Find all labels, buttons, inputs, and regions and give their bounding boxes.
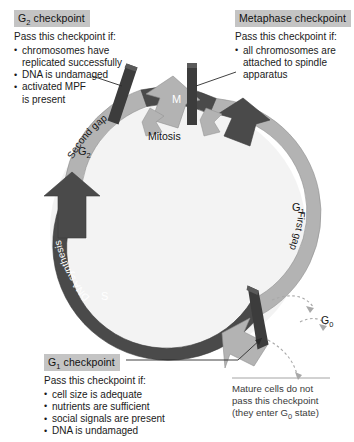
note-line-1: Mature cells do not (232, 383, 319, 395)
g1-checkpoint-box: G1 checkpoint Pass this checkpoint if: c… (44, 352, 165, 438)
g2-checkpoint-box: G2 checkpoint Pass this checkpoint if: c… (14, 8, 122, 106)
note-line-3: (they enter G0 state) (232, 407, 319, 419)
g1-checkpoint-header: G1 checkpoint (44, 354, 120, 371)
list-item: all chromosomes are attached to spindle … (235, 45, 351, 82)
list-item: nutrients are sufficient (44, 401, 165, 413)
mature-cells-note: Mature cells do not pass this checkpoint… (232, 383, 319, 419)
g2-checkpoint-header: G2 checkpoint (14, 10, 90, 27)
leader-line-metaphase (196, 72, 236, 86)
metaphase-checkpoint-header: Metaphase checkpoint (235, 10, 351, 27)
ring-label-s-symbol: S (101, 290, 108, 302)
list-item: chromosomes have replicated successfully (14, 45, 122, 70)
list-item: DNA is undamaged (14, 69, 122, 81)
g0-arrowhead-1 (306, 306, 314, 313)
ring-label-m-symbol: M (172, 93, 181, 105)
g1-checkpoint-lead: Pass this checkpoint if: (44, 375, 165, 388)
list-item: DNA is undamaged (44, 425, 165, 437)
g0-arrowhead-3 (295, 372, 302, 380)
g1-checkpoint-list: cell size is adequate nutrients are suff… (44, 389, 165, 438)
g2-checkpoint-lead: Pass this checkpoint if: (14, 31, 122, 44)
list-item: cell size is adequate (44, 389, 165, 401)
list-item: social signals are present (44, 413, 165, 425)
g2-checkpoint-list: chromosomes have replicated successfully… (14, 45, 122, 106)
ring-label-mitosis: Mitosis (148, 130, 181, 142)
metaphase-checkpoint-list: all chromosomes are attached to spindle … (235, 45, 351, 82)
list-item: activated MPF is present (14, 81, 122, 106)
note-line-2: pass this checkpoint (232, 395, 319, 407)
metaphase-checkpoint-box: Metaphase checkpoint Pass this checkpoin… (235, 8, 351, 81)
diagram-page: G1 First gap S DNA synthesis G2 Second g… (0, 0, 354, 442)
metaphase-checkpoint-lead: Pass this checkpoint if: (235, 31, 351, 44)
checkpoint-bar-metaphase[interactable] (187, 63, 197, 125)
